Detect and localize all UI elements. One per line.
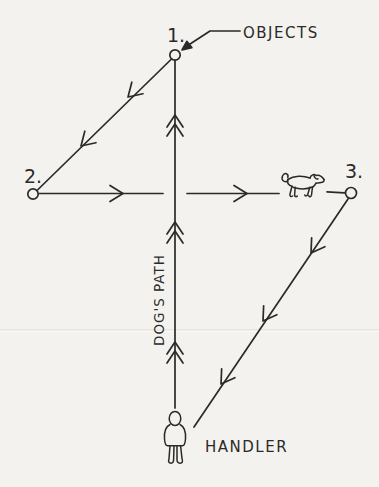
handler-figure-icon: [164, 412, 185, 464]
objects-leader-line: [187, 31, 240, 46]
scanned-diagram-page: 1. 2. 3. OBJECTS HANDLER DOG'S PATH: [0, 0, 379, 487]
arrow-chevron-downleft: [122, 82, 142, 103]
point-3-marker: [346, 188, 357, 199]
dogs-path-label: DOG'S PATH: [151, 254, 167, 346]
point-2-label: 2.: [24, 165, 42, 187]
leg-point1-to-point2-line: [38, 60, 172, 191]
arrow-chevron-downleft: [75, 131, 95, 152]
dog-path-diagram: 1. 2. 3. OBJECTS HANDLER DOG'S PATH: [0, 0, 379, 487]
point-2-marker: [28, 189, 38, 199]
leg-dog-to-point3-dash: [327, 192, 345, 193]
point-1-label: 1.: [167, 24, 185, 46]
handler-label: HANDLER: [205, 438, 288, 456]
leg-point3-to-handler-line: [194, 199, 348, 427]
objects-label: OBJECTS: [243, 24, 319, 42]
point-1-marker: [170, 50, 180, 60]
point-3-label: 3.: [345, 160, 363, 182]
dog-icon: [282, 174, 324, 197]
